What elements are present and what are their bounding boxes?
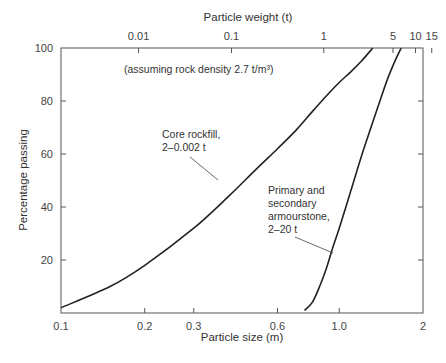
armourstone-label-4: 2–20 t [268,223,297,235]
top-axis-title: Particle weight (t) [204,11,293,23]
armourstone-label-1: Primary and [268,184,325,196]
top-tick-label: 1 [321,30,327,42]
core-rockfill-label-1: Core rockfill, [162,128,220,140]
top-tick-label: 0.1 [224,30,239,42]
y-tick-label: 80 [41,95,53,107]
top-tick-label: 10 [409,30,421,42]
y-tick-label: 60 [41,148,53,160]
y-axis-title: Percentage passing [17,129,29,231]
x-tick-label: 1.0 [332,320,347,332]
top-tick-label: 0.01 [128,30,149,42]
top-tick-label: 15 [426,30,438,42]
armourstone-leader [295,237,333,253]
plot-frame [61,48,423,313]
density-note: (assuming rock density 2.7 t/m³) [124,63,273,75]
y-tick-label: 100 [35,42,53,54]
core-rockfill-leader [190,157,218,180]
x-tick-label: 2 [420,320,426,332]
armourstone-curve [304,48,401,310]
y-tick-label: 40 [41,201,53,213]
x-tick-label: 0.3 [186,320,201,332]
armourstone-label-2: secondary [268,197,317,209]
top-axis-ticks: 0.010.1151015 [128,30,438,53]
core-rockfill-label-2: 2–0.002 t [162,141,206,153]
y-tick-label: 20 [41,254,53,266]
y-axis-ticks: 20406080100 [35,42,423,266]
x-axis-title: Particle size (m) [201,331,284,343]
x-tick-label: 0.2 [137,320,152,332]
series-lines [61,48,401,310]
grading-chart: 0.10.20.30.61.02 0.010.1151015 204060801… [0,0,446,363]
x-axis-ticks: 0.10.20.30.61.02 [53,308,426,332]
top-tick-label: 5 [390,30,396,42]
armourstone-label-3: armourstone, [268,210,330,222]
x-tick-label: 0.1 [53,320,68,332]
